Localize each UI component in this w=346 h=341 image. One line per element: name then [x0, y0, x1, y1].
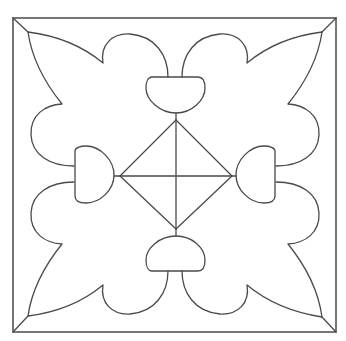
knob-top: [146, 77, 205, 113]
leaf-top-right: [182, 32, 322, 166]
corner-line-br: [322, 317, 336, 332]
coloring-tile: [0, 0, 346, 341]
tile-drawing: [0, 0, 346, 341]
corner-line-tl: [13, 18, 28, 32]
corner-line-tr: [322, 18, 336, 32]
knob-right: [236, 146, 275, 203]
leaf-bottom-right: [182, 182, 322, 317]
knob-bottom: [146, 236, 205, 271]
leaf-top-left: [28, 32, 168, 166]
corner-line-bl: [13, 316, 28, 332]
outer-frame: [13, 18, 336, 332]
knob-left: [75, 146, 114, 203]
